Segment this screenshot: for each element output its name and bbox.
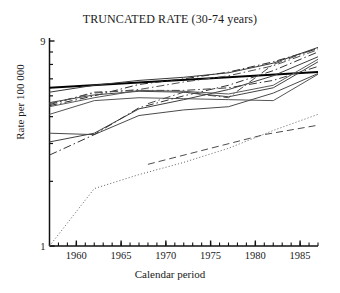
- y-tick-label: 1: [40, 241, 45, 252]
- chart-plot-area: 19196019651970197519801985: [0, 0, 340, 293]
- chart-figure: TRUNCATED RATE (30-74 years) Rate per 10…: [0, 0, 340, 293]
- x-tick-label: 1960: [66, 250, 87, 261]
- x-tick-label: 1985: [290, 250, 311, 261]
- data-series-line: [50, 52, 319, 155]
- x-tick-label: 1980: [245, 250, 266, 261]
- x-tick-label: 1965: [111, 250, 132, 261]
- y-tick-label: 9: [40, 36, 45, 47]
- x-tick-label: 1975: [200, 250, 221, 261]
- data-series-line: [148, 125, 318, 164]
- x-tick-label: 1970: [155, 250, 176, 261]
